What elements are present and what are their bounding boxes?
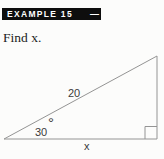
textbook-example-page: EXAMPLE 15 — Find x. 20 30 ° x [0, 0, 164, 159]
degree-symbol: ° [48, 114, 54, 131]
triangle-figure: 20 30 ° x [0, 0, 164, 159]
angle-label: 30 [35, 126, 47, 138]
triangle-outline [4, 56, 157, 139]
right-angle-marker [145, 127, 157, 140]
base-label: x [84, 140, 90, 152]
hypotenuse-label: 20 [68, 87, 80, 99]
